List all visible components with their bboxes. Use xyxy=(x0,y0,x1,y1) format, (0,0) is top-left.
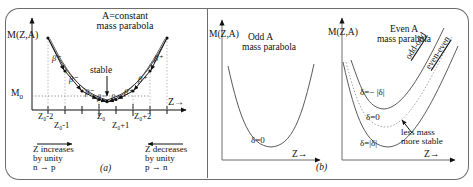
evenA-delta-upper: δ=− |δ| xyxy=(360,88,385,97)
panel-a-beta-minus-3: β⁻ xyxy=(97,94,105,102)
panel-a-x-axis-label: Z→ xyxy=(168,97,184,107)
evenA-annotation: less mass more stable xyxy=(401,128,443,146)
panel-a-note-left: Z increases by unity n → p xyxy=(33,145,74,173)
panel-a-tick-label-2: Z₀ xyxy=(97,112,105,121)
panel-a-beta-plus-3: β⁺ xyxy=(154,54,162,63)
evenA-title-line2: mass parabola xyxy=(368,35,440,45)
panel-a-beta-plus-1: β⁺ xyxy=(124,88,132,97)
panel-a-tick-label-0: Z₀-2 xyxy=(38,112,53,121)
panel-a-m0-label: M0 xyxy=(11,89,23,101)
panel-a-y-axis-label: M(Z,A) xyxy=(7,30,38,40)
p-to-n-arrow-icon: → xyxy=(152,162,161,172)
oddA-x-axis-label: Z→ xyxy=(292,150,307,160)
panel-a-title-line2: mass parabola xyxy=(70,21,180,31)
panel-a-beta-minus-1: β⁻ xyxy=(69,75,77,84)
panel-a-tick-label-1: Z₀-1 xyxy=(54,121,69,130)
oddA-title-line2: mass parabola xyxy=(242,43,296,53)
panel-a-caption: (a) xyxy=(100,164,111,174)
panel-a-beta-minus-2: β⁻ xyxy=(85,88,93,97)
panel-a-beta-minus-0: β⁻ xyxy=(52,54,60,63)
panel-a-beta-plus-2: β⁺ xyxy=(138,75,146,84)
evenA-title: Even A mass parabola xyxy=(368,25,440,44)
evenA-delta-mid: δ=0 xyxy=(366,113,380,122)
note-left-line3: n → p xyxy=(33,163,74,172)
n-to-p-arrow-icon: → xyxy=(40,162,49,172)
evenA-annotation-line2: more stable xyxy=(401,137,443,146)
evenA-delta-lower: δ=|δ| xyxy=(360,139,377,148)
panel-b-caption: (b) xyxy=(316,163,327,173)
oddA-title: Odd A mass parabola xyxy=(248,33,296,52)
figure-root: A=constant mass parabola M(Z,A) Z→ M0 st… xyxy=(0,0,473,187)
panel-a-note-right: Z decreases by unity p → n xyxy=(145,145,187,173)
oddA-parabola xyxy=(228,64,314,147)
panel-a-tick-label-3: Z₀+1 xyxy=(112,121,129,130)
oddA-delta-label: δ=0 xyxy=(251,136,265,145)
panel-a-tick-label-4: Z₀+2 xyxy=(134,112,151,121)
oddA-y-axis-label: M(Z,A) xyxy=(209,30,239,40)
panel-a-beta-plus-0: β⁺ xyxy=(111,94,119,102)
panel-a-stable-label: stable xyxy=(90,66,112,76)
note-right-line3: p → n xyxy=(145,163,187,172)
evenA-y-axis-label: M(Z,A) xyxy=(328,28,358,38)
evenA-x-axis-label: Z→ xyxy=(424,150,439,160)
panel-a-title: A=constant mass parabola xyxy=(70,11,180,31)
